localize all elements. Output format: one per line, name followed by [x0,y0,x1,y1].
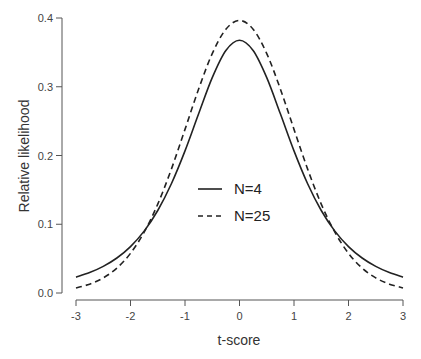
y-axis: 0.00.10.20.30.4 [38,12,62,299]
t-distribution-chart: 0.00.10.20.30.4 -3-2-10123 Relative like… [0,0,421,359]
y-tick-label: 0.0 [38,287,53,299]
x-tick-label: 1 [291,310,297,322]
x-tick-label: -1 [180,310,190,322]
x-axis-label: t-score [218,332,261,348]
x-tick-label: 3 [400,310,406,322]
legend-label-n25: N=25 [234,207,270,224]
x-tick-label: 2 [345,310,351,322]
legend: N=4 N=25 [198,180,270,224]
series-line-n4 [76,40,403,277]
x-tick-label: 0 [236,310,242,322]
legend-label-n4: N=4 [234,180,262,197]
y-tick-label: 0.1 [38,218,53,230]
plot-lines [76,20,403,287]
y-tick-label: 0.4 [38,12,53,24]
y-tick-label: 0.2 [38,150,53,162]
x-axis: -3-2-10123 [71,300,406,322]
x-tick-label: -2 [126,310,136,322]
series-line-n25 [76,20,403,287]
x-tick-label: -3 [71,310,81,322]
y-axis-label: Relative likelihood [16,100,32,213]
y-tick-label: 0.3 [38,81,53,93]
